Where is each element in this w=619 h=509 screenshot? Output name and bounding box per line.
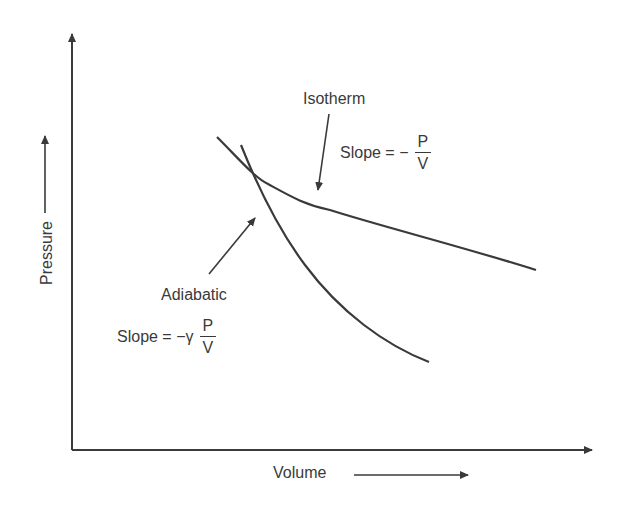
isotherm-slope-numerator: P xyxy=(415,134,432,153)
adiabatic-label: Adiabatic xyxy=(161,286,227,304)
y-axis-label: Pressure xyxy=(38,221,56,285)
adiabatic-pointer-arrow xyxy=(209,218,255,274)
adiabatic-slope-denominator: V xyxy=(200,337,217,356)
adiabatic-curve xyxy=(241,145,429,362)
isotherm-slope-fraction: P V xyxy=(415,134,432,172)
x-axis-label: Volume xyxy=(273,464,326,482)
adiabatic-slope-numerator: P xyxy=(200,318,217,337)
adiabatic-slope-fraction: P V xyxy=(200,318,217,356)
adiabatic-slope-prefix: Slope = −γ xyxy=(117,328,194,346)
adiabatic-slope-formula: Slope = −γ P V xyxy=(117,318,216,356)
isotherm-slope-prefix: Slope = − xyxy=(340,144,409,162)
pv-diagram-canvas xyxy=(0,0,619,509)
isotherm-slope-denominator: V xyxy=(415,153,432,172)
isotherm-label: Isotherm xyxy=(303,90,365,108)
isotherm-slope-formula: Slope = − P V xyxy=(340,134,431,172)
isotherm-pointer-arrow xyxy=(318,114,329,190)
